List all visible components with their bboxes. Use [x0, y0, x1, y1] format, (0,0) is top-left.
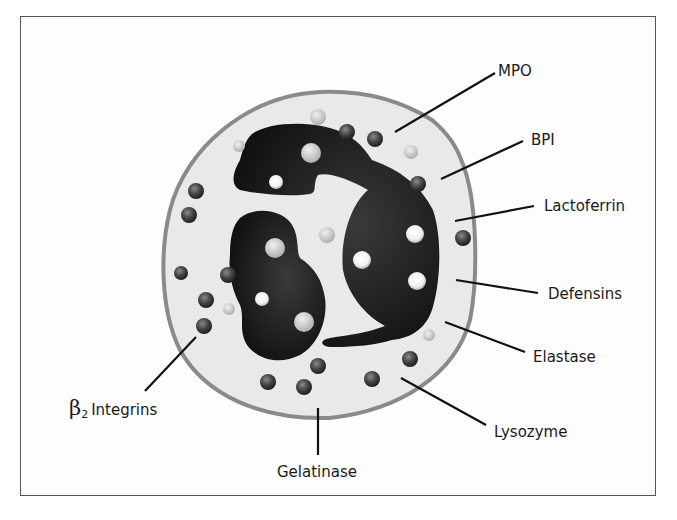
label-mpo: MPO	[498, 64, 532, 79]
label-bpi: BPI	[531, 133, 555, 148]
leader-mpo	[395, 73, 495, 132]
label-defensins: Defensins	[548, 287, 622, 302]
label-lysozyme: Lysozyme	[494, 425, 567, 440]
neutrophil-diagram	[0, 0, 677, 520]
beta-symbol: β	[69, 396, 81, 420]
beta-subscript: 2	[81, 408, 88, 421]
integrins-text: Integrins	[91, 401, 157, 419]
label-gelatinase: Gelatinase	[277, 465, 357, 480]
label-lactoferrin: Lactoferrin	[544, 199, 625, 214]
leader-lysozyme	[401, 378, 486, 425]
label-elastase: Elastase	[533, 350, 596, 365]
label-beta2-integrins: β2Integrins	[69, 398, 157, 419]
